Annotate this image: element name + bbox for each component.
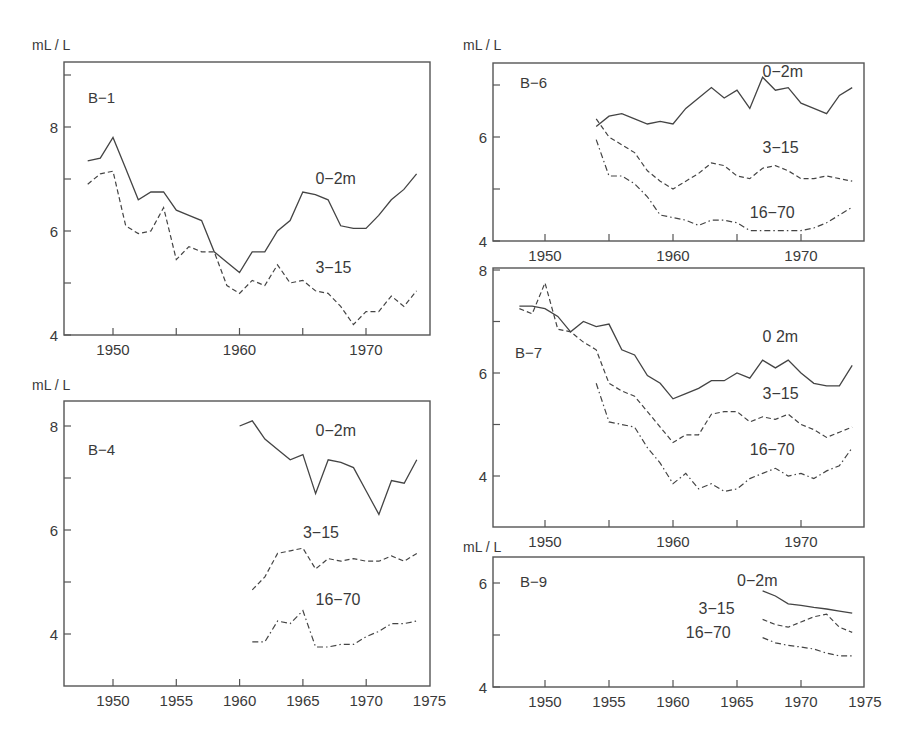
x-tick-label: 1960 [223, 341, 256, 358]
x-tick-label: 1960 [223, 692, 256, 709]
y-tick-label: 6 [50, 223, 58, 240]
y-axis-unit-label: mL / L [32, 377, 71, 393]
series-annotation: 3−15 [315, 259, 351, 276]
series-line-0-2m [763, 591, 853, 613]
y-tick-label: 4 [50, 626, 58, 643]
series-annotation: 3−15 [699, 600, 735, 617]
series-annotation: 0−2m [737, 572, 777, 589]
series-line-3-15 [763, 614, 853, 632]
series-annotation: 0−2m [763, 63, 803, 80]
y-tick-label: 8 [50, 418, 58, 435]
x-tick-label: 1955 [160, 692, 193, 709]
panel-b7: 468195019601970B−70 2m3−1516−70 [479, 262, 864, 550]
x-tick-label: 1975 [848, 693, 881, 710]
panel-label: B−7 [515, 344, 542, 361]
y-tick-label: 8 [50, 119, 58, 136]
panel-b4: 468195019551960196519701975mL / LB−40−2m… [32, 377, 446, 709]
y-tick-label: 4 [50, 327, 58, 344]
y-tick-label: 6 [479, 575, 487, 592]
series-line-16-70 [252, 611, 416, 647]
series-annotation: 16−70 [750, 441, 795, 458]
panel-b1: 468195019601970mL / LB−10−2m3−15 [32, 37, 430, 358]
series-annotation: 0 2m [763, 328, 799, 345]
plot-frame [493, 557, 864, 687]
y-axis-unit-label: mL / L [463, 37, 502, 53]
x-tick-label: 1950 [528, 247, 561, 264]
y-tick-label: 4 [479, 468, 487, 485]
y-tick-label: 6 [479, 129, 487, 146]
y-tick-label: 4 [479, 233, 487, 250]
x-tick-label: 1960 [656, 533, 689, 550]
series-line-16-70 [596, 383, 852, 491]
y-axis-unit-label: mL / L [32, 37, 71, 53]
panel-b9: 46195019551960196519701975mL / LB−90−2m3… [463, 539, 882, 710]
series-annotation: 3−15 [303, 524, 339, 541]
x-tick-label: 1960 [656, 247, 689, 264]
y-tick-label: 6 [479, 365, 487, 382]
x-tick-label: 1955 [592, 693, 625, 710]
x-tick-label: 1960 [656, 693, 689, 710]
series-annotation: 16−70 [686, 624, 731, 641]
panel-label: B−6 [520, 74, 547, 91]
x-tick-label: 1970 [784, 533, 817, 550]
x-tick-label: 1970 [349, 341, 382, 358]
series-annotation: 16−70 [750, 204, 795, 221]
chart-figure: 468195019601970mL / LB−10−2m3−15 4681950… [0, 0, 921, 737]
x-tick-label: 1970 [784, 247, 817, 264]
series-line-3-15 [596, 119, 852, 189]
panel-label: B−4 [88, 441, 115, 458]
series-annotation: 3−15 [763, 139, 799, 156]
x-tick-label: 1950 [528, 533, 561, 550]
y-tick-label: 8 [479, 262, 487, 279]
x-tick-label: 1965 [286, 692, 319, 709]
series-annotation: 0−2m [315, 170, 355, 187]
series-annotation: 3−15 [763, 385, 799, 402]
x-tick-label: 1970 [350, 692, 383, 709]
x-tick-label: 1950 [96, 341, 129, 358]
x-tick-label: 1970 [784, 693, 817, 710]
y-tick-label: 4 [479, 679, 487, 696]
series-line-0-2m [596, 77, 852, 126]
series-line-0-2m [88, 137, 417, 272]
series-line-3-15 [252, 548, 416, 590]
x-tick-label: 1975 [413, 692, 446, 709]
panel-label: B−9 [520, 573, 547, 590]
series-line-16-70 [763, 638, 853, 656]
series-line-3-15 [88, 171, 417, 324]
plot-frame [493, 63, 864, 241]
panel-b6: 46195019601970mL / LB−60−2m3−1516−70 [463, 37, 864, 264]
plot-frame [493, 268, 864, 527]
x-tick-label: 1950 [96, 692, 129, 709]
x-tick-label: 1950 [528, 693, 561, 710]
series-annotation: 0−2m [316, 422, 356, 439]
x-tick-label: 1965 [720, 693, 753, 710]
series-line-0-2m [519, 306, 852, 399]
plot-frame [64, 401, 430, 686]
y-tick-label: 6 [50, 522, 58, 539]
y-axis-unit-label: mL / L [463, 539, 502, 555]
panel-label: B−1 [88, 89, 115, 106]
series-annotation: 16−70 [316, 591, 361, 608]
series-line-3-15 [519, 283, 852, 443]
